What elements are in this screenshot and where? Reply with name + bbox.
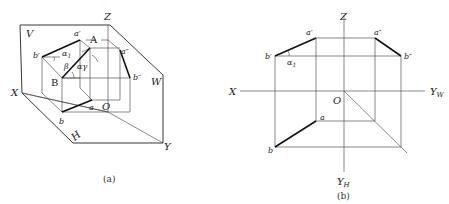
label-v-plane: V: [26, 28, 35, 39]
label-a-dprime: a″: [121, 47, 129, 56]
label-b-dprime: b″: [133, 73, 141, 82]
figure-a: Z V W H X Y O A B a′ b′ a″ b″ a b α1 β α…: [10, 11, 172, 184]
label-o: O: [102, 101, 110, 112]
label-x: X: [228, 86, 237, 97]
angle-arc: [92, 55, 98, 62]
line-ab-front: [275, 38, 316, 56]
label-b: b: [59, 117, 64, 126]
bisector-45: [344, 91, 407, 153]
label-yw: YW: [430, 86, 445, 99]
caption-b: (b): [337, 191, 350, 201]
proj-line: [42, 93, 62, 112]
label-beta: β: [63, 62, 69, 71]
y-axis: [108, 112, 163, 143]
proj-line: [80, 40, 90, 48]
caption-a: (a): [103, 174, 115, 184]
label-h-plane: H: [68, 129, 83, 144]
label-o: O: [333, 95, 341, 106]
label-w-plane: W: [151, 76, 162, 87]
proj-line: [42, 57, 62, 78]
label-alpha1: α1: [62, 49, 71, 59]
projection-diagrams: Z V W H X Y O A B a′ b′ a″ b″ a b α1 β α…: [0, 0, 449, 204]
h-plane-border: [22, 93, 163, 143]
label-a-prime: a′: [306, 28, 313, 37]
label-a-prime: a′: [74, 29, 81, 38]
label-alpha1: α1: [287, 58, 296, 68]
label-A: A: [89, 34, 98, 45]
line-ab-top: [275, 121, 316, 147]
angle-arc: [54, 57, 55, 61]
label-yh: YH: [337, 176, 351, 189]
label-z: Z: [339, 11, 348, 22]
line-ab-side: [375, 38, 401, 56]
label-alpha-gamma: αγ: [77, 62, 87, 71]
label-a: a: [89, 103, 94, 112]
label-y: Y: [164, 141, 172, 152]
angle-arc: [72, 72, 74, 78]
figure-b: Z X YW YH O a′ b′ a″ b″ a b α1 (b): [228, 11, 445, 201]
proj-line: [108, 40, 120, 50]
label-a-dprime: a″: [374, 28, 382, 37]
line-ab-front: [42, 40, 80, 57]
label-B: B: [51, 77, 58, 88]
label-x: X: [10, 87, 19, 98]
label-b-prime: b′: [33, 51, 40, 60]
label-z: Z: [103, 11, 112, 22]
label-b: b: [268, 146, 273, 155]
line-ab-top: [62, 100, 92, 112]
angle-arc: [288, 51, 289, 56]
x-axis-edge: [22, 93, 108, 112]
label-a: a: [320, 113, 325, 122]
label-b-prime: b′: [265, 52, 272, 61]
label-b-dprime: b″: [404, 52, 412, 61]
